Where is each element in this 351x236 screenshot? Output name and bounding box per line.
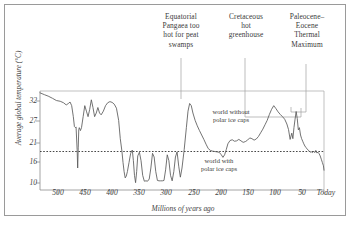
annotation-paleocene-eocene-thermal-maximum: Paleocene– Eocene Thermal Maximum	[276, 12, 338, 49]
x-tick-label: Today	[309, 188, 343, 197]
figure-chart-global-temperature: 32 27 21 16 10 500 450 400 350 300 250 2…	[0, 0, 351, 236]
label-world-with-polar-ice-caps: world with polar ice caps	[188, 157, 250, 173]
annotation-cretaceous-hot-greenhouse: Cretaceous hot greenhouse	[217, 12, 275, 40]
y-axis-title: Average global temperature (°C)	[15, 43, 23, 153]
label-world-without-polar-ice-caps: world without polar ice caps	[200, 108, 262, 124]
x-axis-title: Millions of years ago	[40, 204, 326, 213]
annotation-equatorial-pangaea: Equatorial Pangaea too hot for peat swam…	[150, 12, 212, 49]
